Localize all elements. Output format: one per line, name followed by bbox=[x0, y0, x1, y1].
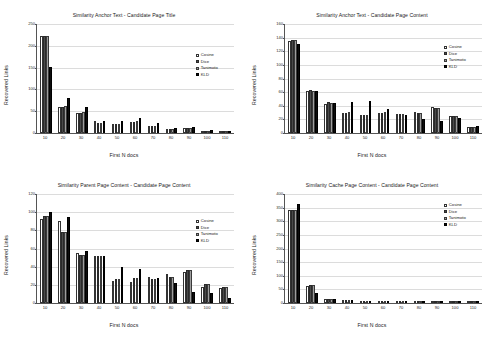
chart-panel-2: Similarity Anchor Text - Candidate Page … bbox=[248, 0, 496, 170]
y-tick-label: 350 bbox=[251, 206, 283, 210]
x-tick-label: 100 bbox=[446, 136, 464, 144]
bar-group bbox=[148, 194, 160, 303]
bar-kld bbox=[297, 204, 300, 303]
x-tick-label: 10 bbox=[36, 136, 54, 144]
x-tick-mark bbox=[54, 302, 72, 304]
bar-group bbox=[201, 24, 213, 133]
x-tick-mark bbox=[144, 132, 162, 134]
bar-group bbox=[112, 194, 124, 303]
x-tick-mark bbox=[36, 302, 54, 304]
y-tick-label: 300 bbox=[251, 219, 283, 223]
plot-area: 050100150200250 bbox=[36, 24, 234, 134]
bar-group bbox=[94, 24, 106, 133]
bar-group bbox=[219, 194, 231, 303]
x-tick-label: 20 bbox=[54, 306, 72, 314]
x-tick-mark bbox=[180, 132, 198, 134]
bar-group bbox=[130, 24, 142, 133]
bar-group bbox=[58, 24, 70, 133]
y-tick-label: 200 bbox=[3, 44, 35, 48]
bar-group bbox=[342, 24, 354, 133]
bar-group bbox=[288, 24, 300, 133]
bar-kld bbox=[351, 102, 354, 133]
bar-group bbox=[396, 24, 408, 133]
y-axis-label: Recovered Links bbox=[3, 65, 9, 105]
bar-kld bbox=[333, 103, 336, 133]
y-tick-label: 60 bbox=[3, 246, 35, 250]
x-tick-label: 90 bbox=[180, 306, 198, 314]
y-tick-label: 50 bbox=[3, 109, 35, 113]
bar-kld bbox=[422, 119, 425, 133]
x-axis-label: First N docs bbox=[248, 152, 496, 158]
bar-group bbox=[396, 194, 408, 303]
x-tick-label: 40 bbox=[90, 306, 108, 314]
x-tick-mark bbox=[320, 132, 338, 134]
chart-legend: CosineDiceTanimotoKLD bbox=[196, 218, 218, 244]
y-tick-label: 200 bbox=[251, 246, 283, 250]
x-tick-mark bbox=[374, 132, 392, 134]
x-tick-mark bbox=[198, 132, 216, 134]
x-tick-label: 60 bbox=[126, 136, 144, 144]
y-tick-label: 50 bbox=[251, 287, 283, 291]
x-tick-labels: 102030405060708090100110 bbox=[36, 136, 234, 144]
x-tick-label: 110 bbox=[216, 306, 234, 314]
y-tick-label: 0 bbox=[3, 301, 35, 305]
y-tick-label: 120 bbox=[251, 49, 283, 53]
x-tick-label: 40 bbox=[90, 136, 108, 144]
legend-swatch-icon bbox=[196, 220, 199, 223]
x-tick-mark bbox=[180, 302, 198, 304]
y-tick-label: 160 bbox=[251, 22, 283, 26]
legend-item-kld[interactable]: KLD bbox=[444, 222, 466, 229]
x-tick-labels: 102030405060708090100110 bbox=[284, 136, 482, 144]
x-tick-mark bbox=[320, 302, 338, 304]
chart-panel-3: Similarity Parent Page Content - Candida… bbox=[0, 170, 248, 340]
y-tick-label: 140 bbox=[251, 36, 283, 40]
x-tick-label: 50 bbox=[356, 136, 374, 144]
chart-legend: CosineDiceTanimotoKLD bbox=[444, 44, 466, 70]
chart-title: Similarity Cache Page Content - Candidat… bbox=[248, 182, 496, 188]
x-tick-label: 50 bbox=[108, 306, 126, 314]
x-tick-mark bbox=[302, 302, 320, 304]
plot-frame: 020406080100120 bbox=[36, 194, 234, 304]
x-tick-mark bbox=[162, 302, 180, 304]
x-tick-label: 40 bbox=[338, 306, 356, 314]
x-tick-labels: 102030405060708090100110 bbox=[36, 306, 234, 314]
y-tick-label: 0 bbox=[251, 301, 283, 305]
y-axis-label: Recovered Links bbox=[251, 235, 257, 275]
x-tick-label: 80 bbox=[162, 306, 180, 314]
legend-swatch-icon bbox=[196, 60, 199, 63]
x-tick-label: 10 bbox=[284, 306, 302, 314]
legend-item-kld[interactable]: KLD bbox=[444, 64, 466, 71]
y-tick-label: 0 bbox=[251, 131, 283, 135]
legend-swatch-icon bbox=[196, 54, 199, 57]
legend-swatch-icon bbox=[444, 59, 447, 62]
x-tick-label: 110 bbox=[464, 136, 482, 144]
legend-item-kld[interactable]: KLD bbox=[196, 238, 218, 245]
bar-series-container bbox=[37, 194, 234, 303]
x-tick-label: 100 bbox=[198, 306, 216, 314]
x-tick-mark bbox=[162, 132, 180, 134]
y-tick-label: 60 bbox=[251, 90, 283, 94]
x-tick-marks bbox=[36, 132, 234, 134]
bar-group bbox=[130, 194, 142, 303]
bar-group bbox=[306, 24, 318, 133]
bar-group bbox=[360, 24, 372, 133]
x-tick-label: 100 bbox=[198, 136, 216, 144]
bar-group bbox=[219, 24, 231, 133]
x-axis-label: First N docs bbox=[248, 322, 496, 328]
x-tick-label: 40 bbox=[338, 136, 356, 144]
plot-area: 020406080100120 bbox=[36, 194, 234, 304]
legend-swatch-icon bbox=[196, 239, 199, 242]
x-tick-label: 60 bbox=[374, 306, 392, 314]
x-tick-label: 110 bbox=[216, 136, 234, 144]
y-tick-label: 20 bbox=[251, 117, 283, 121]
y-tick-label: 120 bbox=[3, 192, 35, 196]
legend-item-kld[interactable]: KLD bbox=[196, 72, 218, 79]
x-tick-mark bbox=[392, 302, 410, 304]
y-tick-label: 100 bbox=[3, 87, 35, 91]
x-tick-label: 30 bbox=[72, 136, 90, 144]
bar-group bbox=[76, 194, 88, 303]
legend-label: KLD bbox=[201, 72, 209, 79]
bar-series-container bbox=[37, 24, 234, 133]
legend-swatch-icon bbox=[444, 223, 447, 226]
bar-group bbox=[467, 24, 479, 133]
